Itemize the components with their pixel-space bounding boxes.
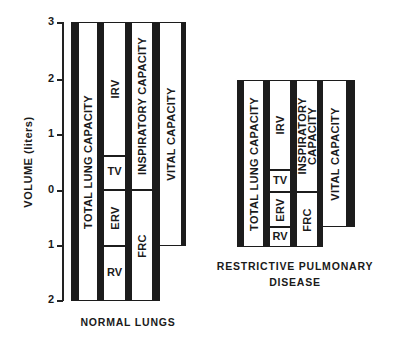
tick-label-1: 1	[40, 127, 54, 139]
restrictive-caption: RESTRICTIVE PULMONARY DISEASE	[205, 258, 385, 290]
irv-tv-divider	[270, 169, 290, 171]
tick-label-0: 0	[40, 183, 54, 195]
erv-rv-divider	[270, 226, 290, 228]
normal-ic-label: INSPIRATORY CAPACITY	[132, 22, 152, 189]
normal-erv-label: ERV	[104, 191, 125, 245]
tick-label-2: 2	[40, 72, 54, 84]
normal-vc-label: VITAL CAPACITY	[160, 22, 181, 246]
strip	[97, 22, 104, 301]
restrictive-tlc-label: TOTAL LUNG CAPACITY	[244, 80, 263, 247]
normal-frc-label: FRC	[132, 191, 152, 301]
strip	[181, 22, 186, 246]
tick-label-neg1: 1	[40, 238, 54, 250]
tick-neg1	[57, 245, 63, 247]
y-axis-line	[62, 22, 64, 301]
tick-label-3: 3	[40, 15, 54, 27]
tick-1	[57, 134, 63, 136]
tick-label-neg2: 2	[40, 293, 54, 305]
strip	[152, 22, 160, 301]
normal-irv-label: IRV	[104, 22, 125, 155]
restrictive-rv-label: RV	[270, 230, 290, 242]
restrictive-vc-label: VITAL CAPACITY	[323, 80, 346, 227]
y-axis-label: VOLUME (liters)	[22, 112, 34, 212]
normal-tv-label: TV	[104, 165, 125, 177]
tick-3	[57, 22, 63, 24]
irv-tv-divider	[104, 155, 125, 157]
tick-0	[57, 190, 63, 192]
strip	[71, 22, 79, 301]
restrictive-irv-label: IRV	[270, 80, 290, 169]
normal-lungs-caption: NORMAL LUNGS	[68, 314, 188, 330]
tick-neg2	[57, 300, 63, 302]
restrictive-tv-label: TV	[270, 174, 290, 186]
strip	[125, 22, 132, 301]
strip	[263, 80, 270, 247]
restrictive-ic-label: INSPIRATORYCAPACITY	[297, 80, 317, 191]
strip	[346, 80, 355, 227]
tick-2	[57, 79, 63, 81]
restrictive-frc-label: FRC	[297, 193, 317, 247]
restrictive-erv-label: ERV	[270, 193, 290, 226]
normal-tlc-label: TOTAL LUNG CAPACITY	[79, 22, 97, 301]
normal-rv-label: RV	[104, 266, 125, 278]
strip	[237, 80, 244, 247]
erv-rv-divider	[104, 245, 125, 247]
